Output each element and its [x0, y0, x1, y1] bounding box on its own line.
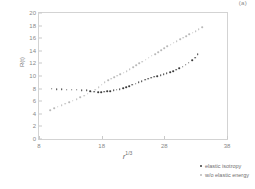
data-point: [117, 75, 119, 77]
x-tick-mark: [164, 136, 165, 139]
data-point: [179, 67, 181, 69]
data-point: [110, 78, 112, 80]
data-point: [95, 89, 97, 91]
data-point: [68, 101, 70, 103]
data-point: [160, 74, 162, 76]
data-point: [116, 89, 118, 91]
data-point: [97, 91, 99, 93]
data-point: [198, 29, 200, 31]
data-point: [170, 44, 172, 46]
data-point: [103, 91, 105, 93]
data-point: [148, 57, 150, 59]
data-point: [122, 87, 124, 89]
x-tick-label: 8: [37, 143, 40, 149]
data-point: [123, 72, 125, 74]
y-tick-label: 6: [33, 98, 36, 104]
data-point: [132, 66, 134, 68]
data-point: [197, 53, 199, 55]
y-tick-label: 8: [33, 86, 36, 92]
x-tick-label: 18: [98, 143, 105, 149]
data-point: [65, 103, 67, 105]
data-point: [138, 82, 140, 84]
data-point: [195, 30, 197, 32]
data-point: [166, 72, 168, 74]
x-axis-label-exponent: 1/3: [125, 150, 132, 156]
data-point: [128, 85, 130, 87]
legend: elastic isotropyw/o elastic energy: [200, 163, 249, 181]
data-point: [66, 89, 68, 91]
data-point: [188, 62, 190, 64]
data-point: [185, 64, 187, 66]
y-tick-mark: [39, 126, 42, 127]
data-point: [113, 90, 115, 92]
y-tick-label: 20: [29, 10, 36, 16]
data-point: [194, 57, 196, 59]
data-point: [164, 47, 166, 49]
data-point: [172, 70, 174, 72]
data-point: [167, 46, 169, 48]
data-point: [49, 109, 51, 111]
data-point: [51, 88, 53, 90]
data-point: [107, 91, 109, 93]
data-point: [120, 73, 122, 75]
data-point: [57, 106, 59, 108]
y-tick-label: 14: [29, 48, 36, 54]
y-tick-label: 0: [33, 136, 36, 142]
data-point: [141, 80, 143, 82]
data-point: [53, 107, 55, 109]
legend-marker-icon: [200, 174, 202, 176]
data-point: [179, 39, 181, 41]
data-point: [182, 37, 184, 39]
x-axis-label: r1/3: [123, 150, 133, 161]
data-point: [145, 59, 147, 61]
data-point: [144, 79, 146, 81]
data-point: [173, 42, 175, 44]
data-point: [71, 89, 73, 91]
data-point: [80, 97, 82, 99]
data-point: [61, 104, 63, 106]
y-tick-label: 4: [33, 111, 36, 117]
data-point: [201, 27, 203, 29]
data-point: [182, 66, 184, 68]
data-point: [157, 75, 159, 77]
legend-marker-icon: [200, 165, 202, 167]
y-tick-mark: [39, 38, 42, 39]
y-tick-mark: [39, 25, 42, 26]
legend-item[interactable]: w/o elastic energy: [200, 172, 249, 178]
data-point: [138, 63, 140, 65]
data-point: [86, 90, 88, 92]
data-point: [61, 88, 63, 90]
data-point: [56, 88, 58, 90]
y-tick-mark: [39, 13, 42, 14]
data-point: [119, 88, 121, 90]
y-tick-mark: [39, 50, 42, 51]
y-tick-mark: [39, 101, 42, 102]
data-point: [175, 69, 177, 71]
x-tick-mark: [227, 136, 228, 139]
data-point: [191, 59, 193, 61]
figure-container: (a) R(t) 024681012141618208182838 r1/3 e…: [0, 0, 255, 189]
data-point: [157, 51, 159, 53]
data-point: [189, 34, 191, 36]
y-tick-mark: [39, 63, 42, 64]
data-point: [163, 73, 165, 75]
data-point: [132, 84, 134, 86]
data-point: [185, 35, 187, 37]
data-point: [154, 53, 156, 55]
x-tick-label: 38: [224, 143, 231, 149]
y-tick-mark: [39, 113, 42, 114]
data-point: [169, 71, 171, 73]
data-point: [93, 91, 95, 93]
legend-item[interactable]: elastic isotropy: [200, 163, 249, 169]
data-point: [129, 68, 131, 70]
data-point: [83, 95, 85, 97]
data-point: [154, 76, 156, 78]
data-point: [76, 89, 78, 91]
data-point: [76, 98, 78, 100]
y-tick-label: 12: [29, 60, 36, 66]
y-tick-mark: [39, 76, 42, 77]
data-point: [72, 100, 74, 102]
plot-area: R(t) 024681012141618208182838: [38, 12, 228, 140]
data-point: [192, 32, 194, 34]
data-point: [176, 40, 178, 42]
